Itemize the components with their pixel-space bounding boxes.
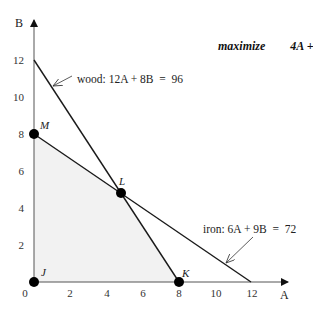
- y-tick-4: 4: [19, 202, 25, 214]
- y-axis-label: B: [15, 16, 23, 30]
- x-tick-6: 6: [140, 287, 146, 299]
- wood-label-arrow: [53, 76, 72, 86]
- iron-label-arrow: [226, 237, 253, 263]
- wood-constraint-label: wood: 12A + 8B = 96: [77, 73, 183, 85]
- y-tick-12: 12: [13, 54, 24, 66]
- iron-constraint-label: iron: 6A + 9B = 72: [203, 223, 296, 235]
- point-j: [29, 277, 39, 287]
- y-tick-6: 6: [19, 165, 25, 177]
- point-m: [29, 129, 39, 139]
- x-tick-0: 0: [22, 287, 28, 299]
- y-tick-8: 8: [19, 128, 25, 140]
- x-axis-label: A: [280, 288, 289, 302]
- objective-label: maximize 4A + 5B: [203, 39, 313, 53]
- x-tick-12: 12: [247, 287, 258, 299]
- y-tick-10: 10: [13, 91, 25, 103]
- feasible-region: [34, 134, 179, 282]
- point-k-label: K: [181, 267, 190, 279]
- objective-expression: 4A + 5B: [289, 39, 313, 53]
- objective-verb: maximize: [218, 39, 266, 53]
- y-tick-2: 2: [19, 239, 25, 251]
- point-m-label: M: [39, 119, 50, 131]
- x-tick-4: 4: [104, 287, 110, 299]
- point-l: [116, 188, 126, 198]
- linear-program-chart: B A 12 10 8 6 4 2 0 2 4 6 8 10 12 J M L …: [0, 0, 313, 315]
- x-tick-2: 2: [67, 287, 73, 299]
- point-l-label: L: [118, 175, 125, 187]
- x-tick-8: 8: [176, 287, 182, 299]
- x-tick-10: 10: [211, 287, 223, 299]
